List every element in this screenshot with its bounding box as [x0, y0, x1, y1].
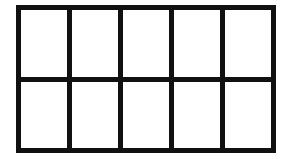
grid-cell-r1-c2: [72, 10, 118, 77]
grid-cell-r1-c5: [225, 10, 271, 77]
grid-cell-r2-c4: [174, 82, 220, 149]
grid-cell-r2-c3: [123, 82, 169, 149]
grid-cell-r1-c3: [123, 10, 169, 77]
grid-cell-r2-c5: [225, 82, 271, 149]
grid-cell-r1-c4: [174, 10, 220, 77]
grid-cell-r1-c1: [21, 10, 67, 77]
grid-cell-r2-c2: [72, 82, 118, 149]
grid-cell-r2-c1: [21, 82, 67, 149]
ten-frame-grid: [16, 5, 276, 153]
